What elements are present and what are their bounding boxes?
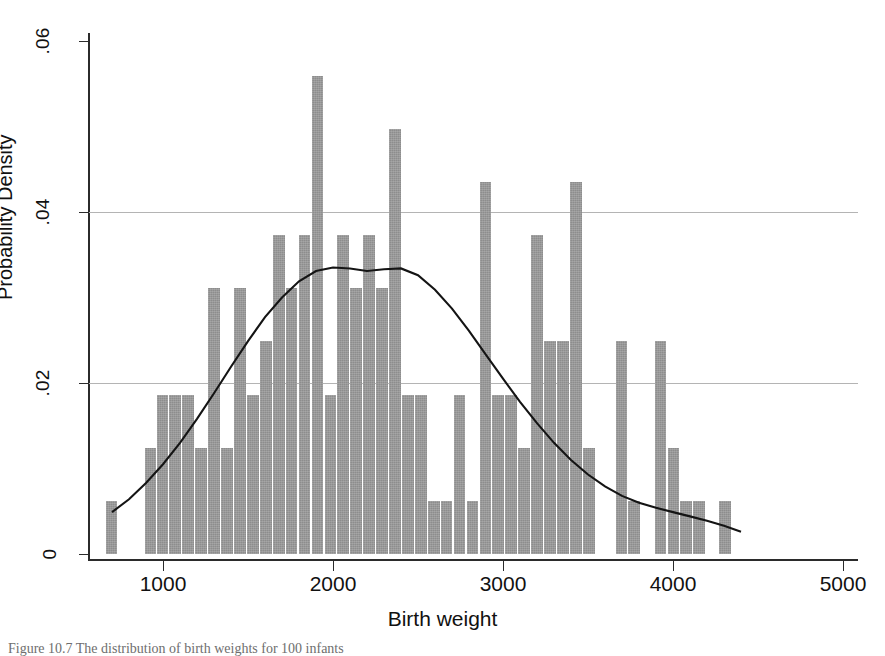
x-tick bbox=[333, 561, 334, 571]
density-curve bbox=[89, 41, 858, 554]
x-tick bbox=[163, 561, 164, 571]
y-tick-label: .04 bbox=[31, 198, 53, 225]
y-tick-label: 0 bbox=[40, 549, 62, 560]
x-tick-label: 2000 bbox=[310, 572, 357, 596]
x-tick-label: 4000 bbox=[650, 572, 697, 596]
x-axis-title: Birth weight bbox=[0, 607, 885, 631]
figure-caption: Figure 10.7 The distribution of birth we… bbox=[8, 641, 568, 656]
x-axis-line bbox=[88, 559, 858, 561]
x-tick-label: 3000 bbox=[480, 572, 527, 596]
x-tick bbox=[673, 561, 674, 571]
figure-page: Probability Density 0.02.04.06 100020003… bbox=[0, 0, 885, 656]
y-tick bbox=[79, 383, 89, 384]
y-tick bbox=[79, 212, 89, 213]
y-tick bbox=[79, 41, 89, 42]
x-tick bbox=[843, 561, 844, 571]
y-tick bbox=[79, 554, 89, 555]
x-tick-label: 5000 bbox=[820, 572, 867, 596]
x-tick bbox=[503, 561, 504, 571]
y-axis-title: Probability Density bbox=[0, 134, 17, 300]
y-tick-label: .06 bbox=[31, 27, 53, 54]
y-tick-label: .02 bbox=[31, 369, 53, 396]
x-tick-label: 1000 bbox=[140, 572, 187, 596]
